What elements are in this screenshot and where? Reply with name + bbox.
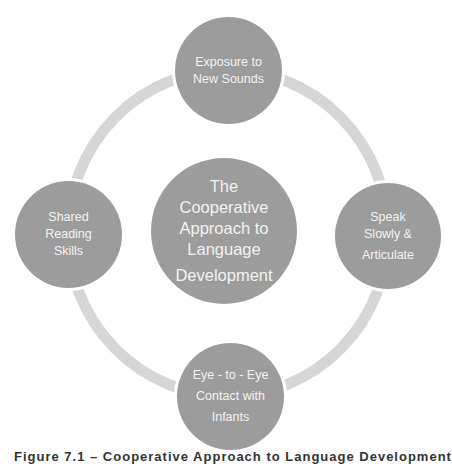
node-label: Eye - to - Eye Contact with Infants [187,367,275,426]
center-label-line: The [175,176,272,197]
node-label-line: Reading [45,226,92,243]
node-label-line: Slowly & [362,226,414,243]
figure-caption: Figure 7.1 – Cooperative Approach to Lan… [14,449,452,464]
node-label-line: Articulate [362,247,414,264]
node-eye-to-eye-contact: Eye - to - Eye Contact with Infants [177,343,284,450]
node-label-line: Eye - to - Eye [193,367,269,384]
node-label-line: New Sounds [193,71,264,88]
node-shared-reading-skills: Shared Reading Skills [15,181,122,288]
node-label-line: Contact with [193,388,269,405]
node-label: Shared Reading Skills [39,209,98,260]
center-label-line: Development [175,265,272,286]
node-exposure-to-new-sounds: Exposure to New Sounds [175,17,282,124]
center-label-line: Language [175,239,272,260]
center-label: The Cooperative Approach to Language Dev… [169,176,278,286]
center-label-line: Approach to [175,218,272,239]
node-label-line: Skills [45,243,92,260]
node-label: Exposure to New Sounds [187,54,270,88]
node-label: Speak Slowly & Articulate [356,209,420,264]
node-label-line: Infants [193,409,269,426]
node-label-line: Speak [362,209,414,226]
node-label-line: Exposure to [193,54,264,71]
node-speak-slowly-articulate: Speak Slowly & Articulate [335,183,441,289]
center-label-line: Cooperative [175,197,272,218]
center-node-cooperative-approach: The Cooperative Approach to Language Dev… [151,158,297,304]
node-label-line: Shared [45,209,92,226]
